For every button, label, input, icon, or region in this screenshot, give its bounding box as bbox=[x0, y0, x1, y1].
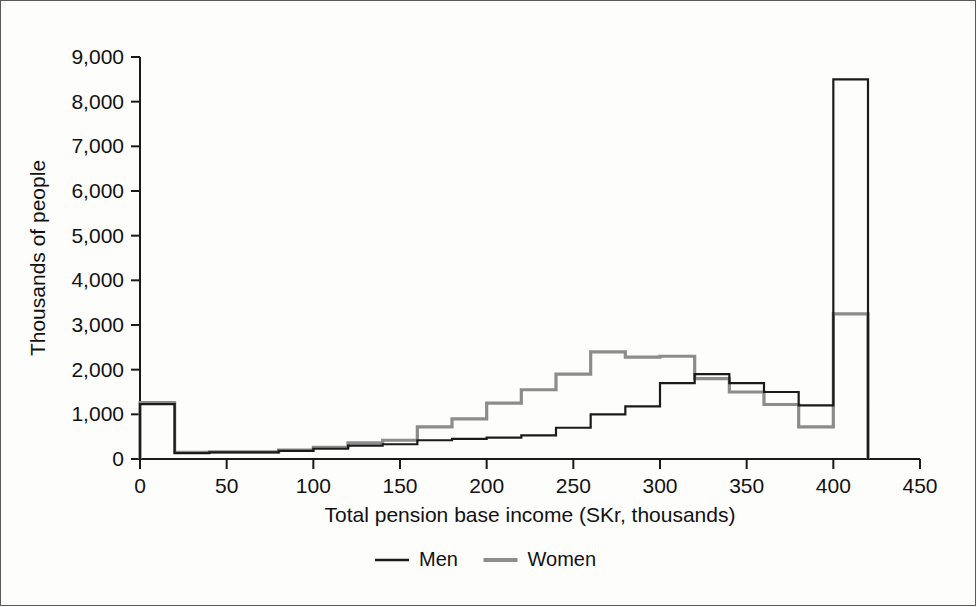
x-tick-label: 150 bbox=[382, 474, 417, 497]
y-tick-label: 9,000 bbox=[71, 45, 124, 68]
y-axis-title: Thousands of people bbox=[26, 160, 49, 356]
y-tick-label: 0 bbox=[112, 447, 124, 470]
x-tick-label: 400 bbox=[816, 474, 851, 497]
legend-label-men: Men bbox=[419, 548, 458, 570]
chart-legend: MenWomen bbox=[375, 548, 596, 570]
x-tick-label: 350 bbox=[729, 474, 764, 497]
y-tick-label: 6,000 bbox=[71, 179, 124, 202]
x-tick-label: 200 bbox=[469, 474, 504, 497]
y-axis-ticks: 01,0002,0003,0004,0005,0006,0007,0008,00… bbox=[71, 45, 140, 470]
x-tick-label: 300 bbox=[642, 474, 677, 497]
histogram-chart: 01,0002,0003,0004,0005,0006,0007,0008,00… bbox=[0, 0, 977, 607]
y-tick-label: 5,000 bbox=[71, 224, 124, 247]
y-tick-label: 2,000 bbox=[71, 358, 124, 381]
x-tick-label: 50 bbox=[215, 474, 238, 497]
x-tick-label: 250 bbox=[556, 474, 591, 497]
y-tick-label: 8,000 bbox=[71, 90, 124, 113]
legend-label-women: Women bbox=[528, 548, 597, 570]
x-axis-title: Total pension base income (SKr, thousand… bbox=[325, 503, 736, 526]
x-tick-label: 0 bbox=[134, 474, 146, 497]
x-tick-label: 100 bbox=[296, 474, 331, 497]
x-tick-label: 450 bbox=[902, 474, 937, 497]
y-tick-label: 1,000 bbox=[71, 402, 124, 425]
x-axis-ticks: 050100150200250300350400450 bbox=[134, 459, 937, 497]
y-tick-label: 4,000 bbox=[71, 268, 124, 291]
y-tick-label: 3,000 bbox=[71, 313, 124, 336]
y-tick-label: 7,000 bbox=[71, 134, 124, 157]
figure-container: 01,0002,0003,0004,0005,0006,0007,0008,00… bbox=[0, 0, 977, 607]
